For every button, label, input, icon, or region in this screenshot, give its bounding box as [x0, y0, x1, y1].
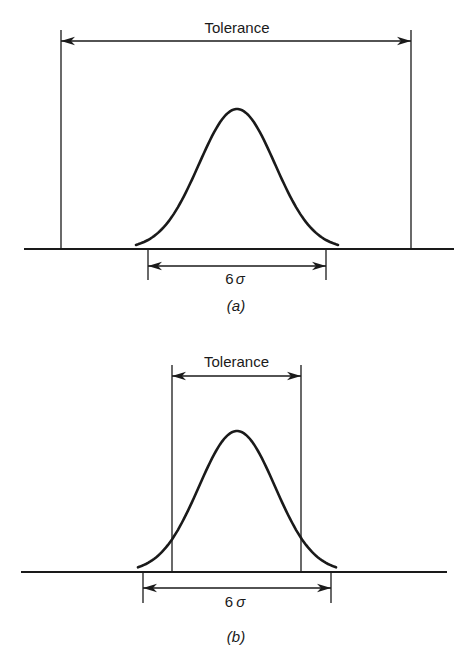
panel-caption: (a) [227, 297, 245, 314]
six-sigma-label: 6σ [225, 270, 245, 287]
normal-distribution-curve [136, 109, 338, 245]
six-sigma-label: 6σ [225, 593, 246, 610]
tolerance-label: Tolerance [204, 19, 269, 36]
tolerance-label: Tolerance [204, 353, 269, 370]
panel-b: Tolerance 6σ (b) [21, 353, 447, 645]
tolerance-diagram: Tolerance 6σ (a) Tolerance 6σ (b) [0, 0, 469, 646]
normal-distribution-curve [138, 431, 336, 567]
panel-a: Tolerance 6σ (a) [24, 19, 454, 314]
panel-caption: (b) [227, 628, 245, 645]
